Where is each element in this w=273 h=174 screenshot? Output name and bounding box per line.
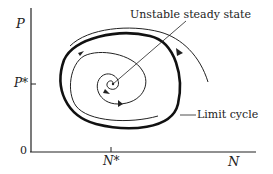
steady-state-leader-line <box>113 21 186 84</box>
inner-spiral-trajectory <box>70 52 158 120</box>
outer-trajectory-arrow <box>176 48 183 56</box>
inner-arrow-2 <box>78 51 84 56</box>
inner-arrow-3 <box>118 100 123 107</box>
phase-plane-diagram <box>0 0 273 174</box>
inner-arrow-1 <box>103 89 110 94</box>
origin-label: 0 <box>20 145 27 156</box>
limit-cycle-curve <box>61 33 180 128</box>
y-tick-label: P* <box>14 77 28 89</box>
x-axis-label: N <box>228 155 239 168</box>
x-tick-label: N* <box>103 155 120 167</box>
limit-cycle-annotation: Limit cycle <box>197 109 258 120</box>
y-axis-label: P <box>16 17 25 30</box>
outer-trajectory <box>70 28 208 82</box>
unstable-steady-state-annotation: Unstable steady state <box>130 9 251 20</box>
